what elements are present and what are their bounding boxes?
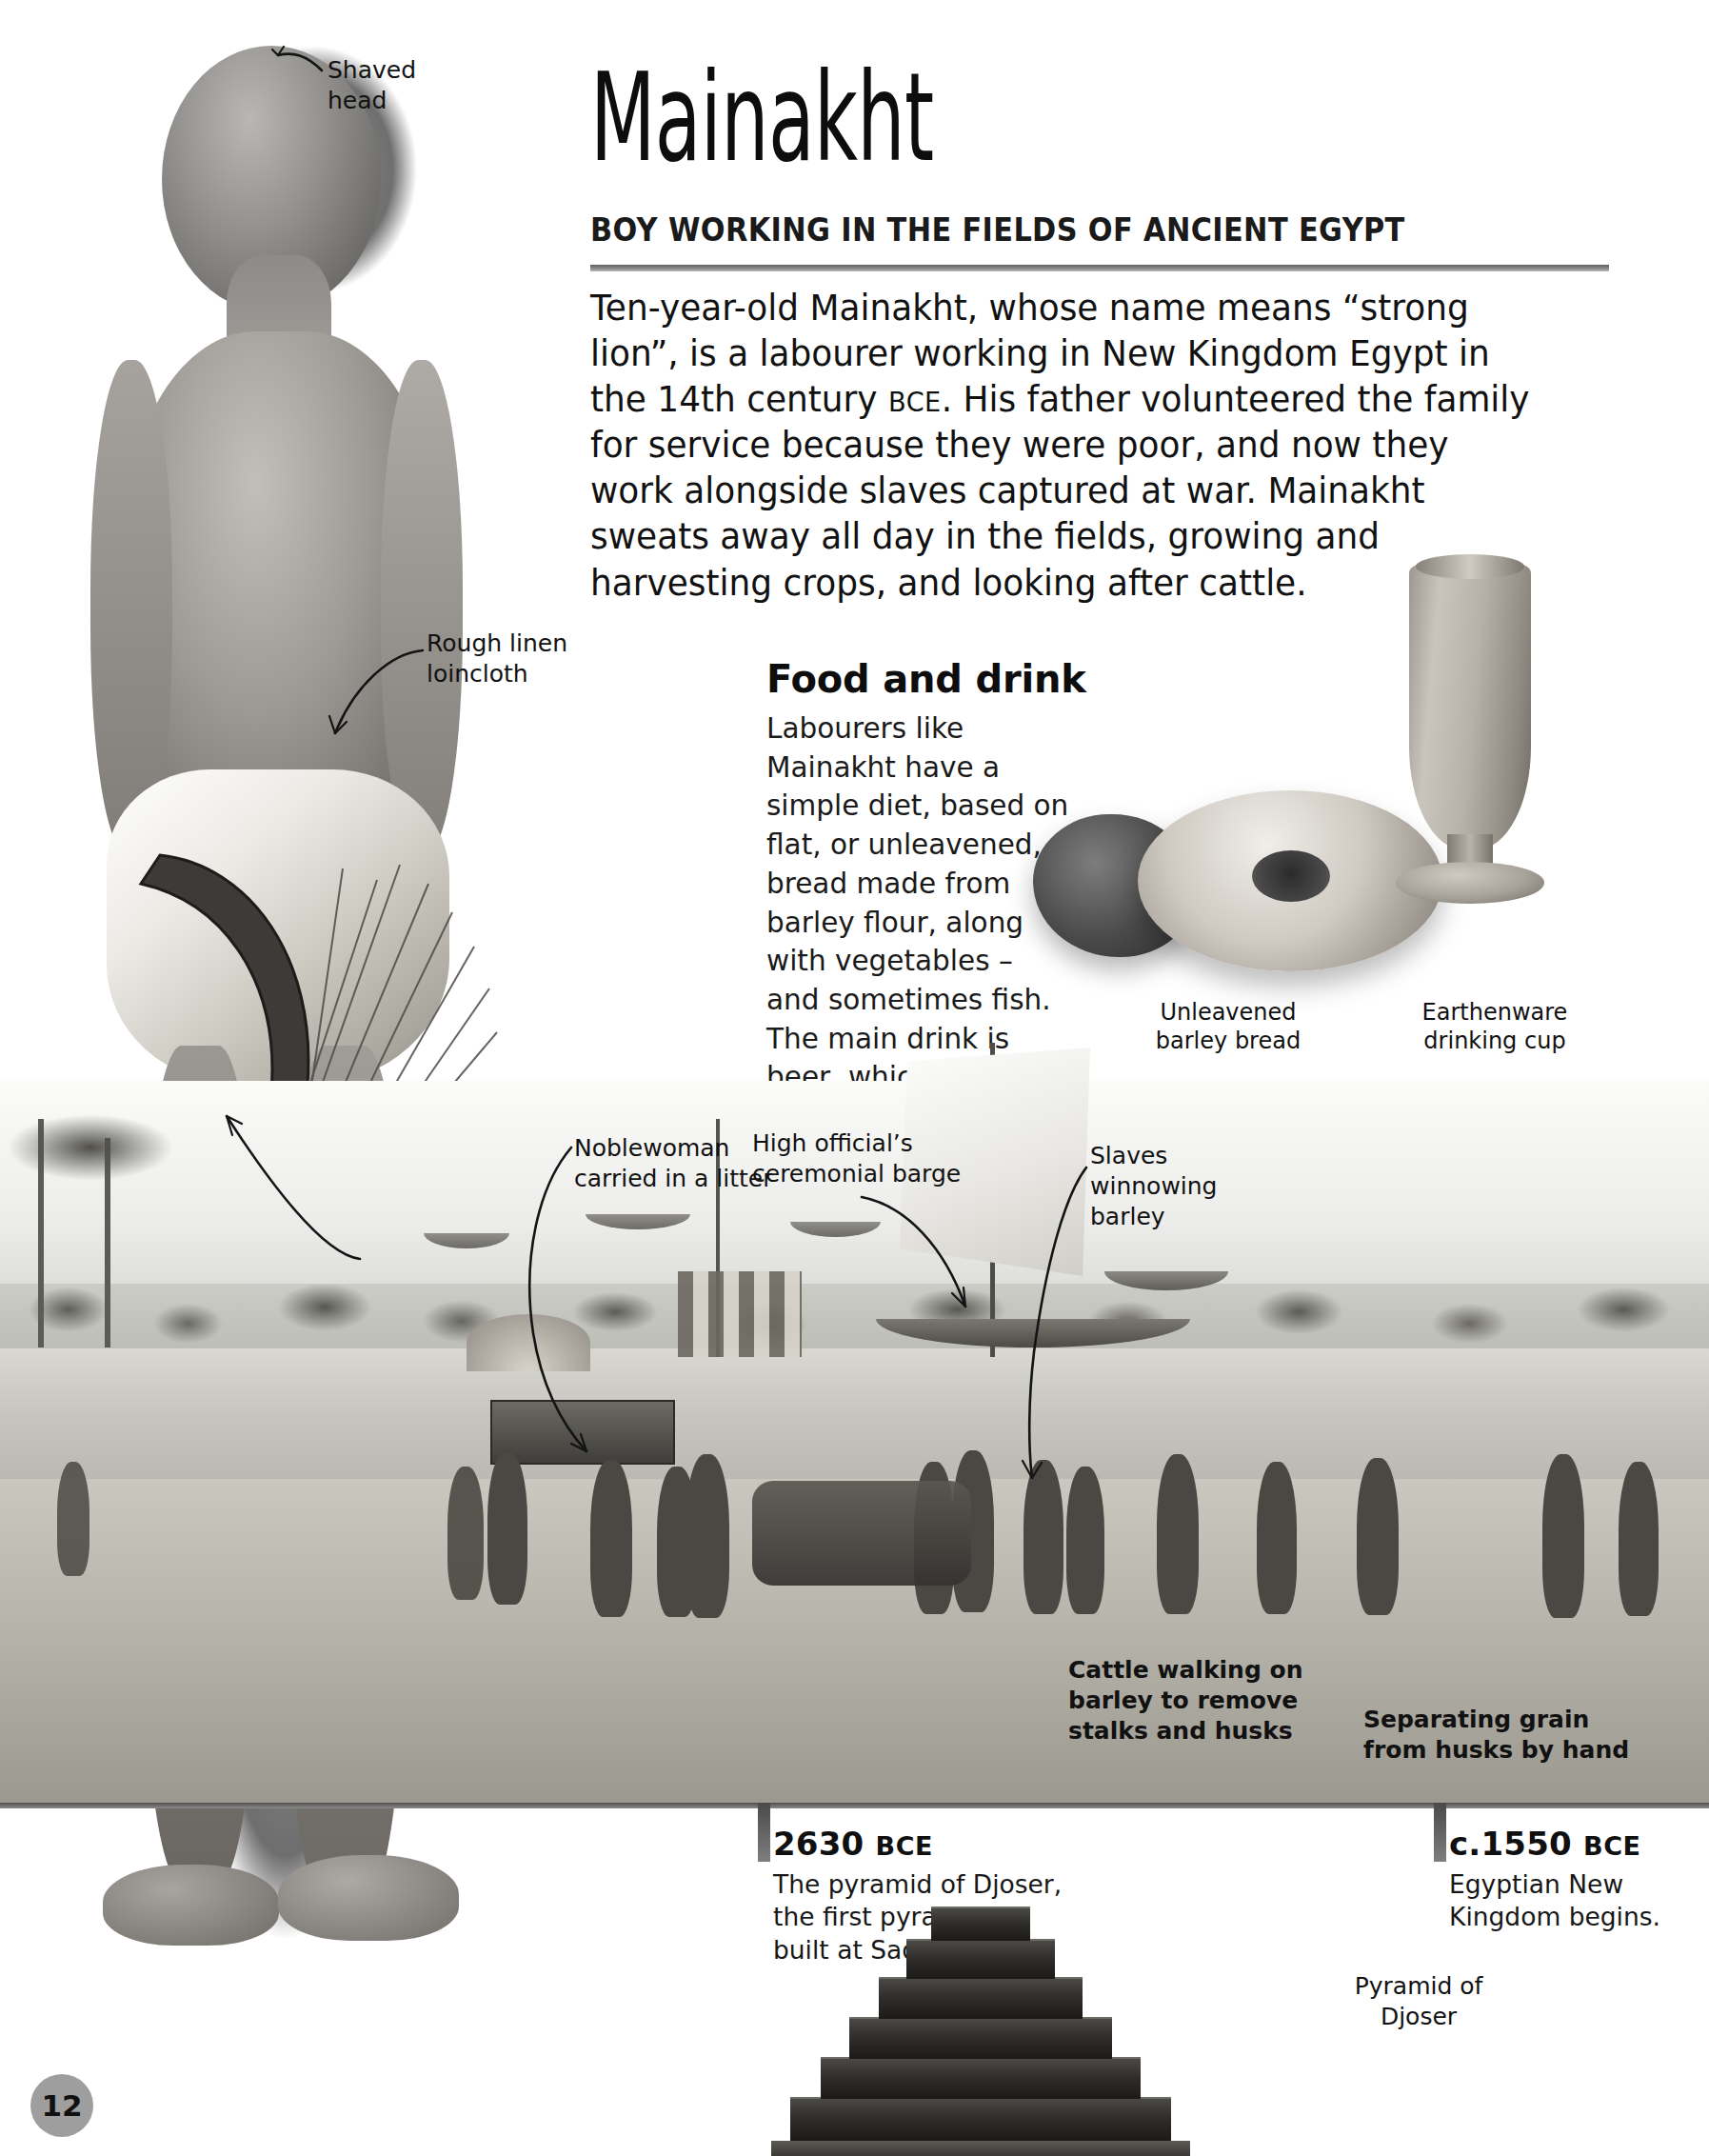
pyramid-step bbox=[879, 1977, 1083, 2019]
pyramid-step bbox=[849, 2017, 1112, 2059]
book-page: Mainakht BOY WORKING IN THE FIELDS OF AN… bbox=[0, 0, 1709, 2156]
pyramid-step bbox=[821, 2057, 1141, 2099]
page-number-badge: 12 bbox=[30, 2074, 93, 2137]
scene-figure bbox=[1157, 1454, 1199, 1614]
timeline-body-2: Egyptian New Kingdom begins. bbox=[1449, 1868, 1709, 1934]
timeline-rule bbox=[0, 1803, 1709, 1808]
intro-paragraph: Ten-year-old Mainakht, whose name means … bbox=[590, 286, 1541, 607]
header-divider bbox=[590, 265, 1609, 271]
scene-figure bbox=[57, 1462, 89, 1576]
cattle-herd bbox=[752, 1481, 971, 1586]
timeline-date-2-era: BCE bbox=[1583, 1831, 1641, 1861]
scene-figure bbox=[1357, 1458, 1399, 1615]
scene-river bbox=[0, 1348, 1709, 1493]
scene-figure bbox=[1619, 1462, 1659, 1616]
pyramid-step bbox=[931, 1906, 1030, 1941]
pyramid-ground bbox=[771, 2141, 1190, 2156]
pyramid-of-djoser-photograph bbox=[776, 1900, 1185, 2156]
timeline-tick-1 bbox=[758, 1803, 770, 1862]
timeline-tick-2 bbox=[1434, 1803, 1446, 1862]
palm-fronds bbox=[0, 1090, 200, 1205]
scene-figure bbox=[1257, 1462, 1297, 1614]
callout-shaved-head: Shaved head bbox=[328, 55, 499, 116]
caption-barley-bread: Unleavened barley bread bbox=[1100, 998, 1357, 1055]
page-title: Mainakht bbox=[590, 57, 1039, 179]
scene-figure bbox=[1066, 1467, 1104, 1614]
scene-figure bbox=[590, 1460, 632, 1617]
page-subtitle: BOY WORKING IN THE FIELDS OF ANCIENT EGY… bbox=[590, 211, 1554, 249]
food-and-drink-heading: Food and drink bbox=[766, 657, 1086, 701]
caption-pyramid-of-djoser: Pyramid of Djoser bbox=[1314, 1971, 1523, 2031]
scene-figure bbox=[447, 1467, 484, 1600]
scene-figure bbox=[1542, 1454, 1584, 1618]
earthenware-cup-body bbox=[1409, 564, 1531, 849]
callout-barge: High official’s ceremonial barge bbox=[752, 1128, 1019, 1189]
boy-right-foot bbox=[278, 1855, 459, 1941]
timeline-date-1-value: 2630 bbox=[773, 1825, 864, 1863]
boy-right-arm bbox=[381, 360, 463, 855]
noblewoman-litter bbox=[490, 1400, 675, 1465]
litter-parasol bbox=[467, 1314, 590, 1371]
barley-bread-hole bbox=[1252, 850, 1330, 902]
callout-loincloth: Rough linen loincloth bbox=[427, 629, 646, 689]
callout-cattle: Cattle walking on barley to remove stalk… bbox=[1068, 1655, 1344, 1746]
callout-separating-grain: Separating grain from husks by hand bbox=[1363, 1705, 1668, 1766]
boat-awning bbox=[678, 1271, 802, 1357]
scene-treeline bbox=[0, 1240, 1709, 1356]
earthenware-cup-foot bbox=[1396, 862, 1544, 904]
boy-left-foot bbox=[103, 1865, 279, 1946]
intro-era: BCE bbox=[888, 387, 942, 418]
timeline-date-2-value: c.1550 bbox=[1449, 1825, 1572, 1863]
earthenware-cup-rim bbox=[1416, 554, 1524, 579]
scene-figure bbox=[1023, 1460, 1063, 1614]
nile-scene-illustration bbox=[0, 1081, 1709, 1805]
scene-figure bbox=[686, 1454, 729, 1618]
pyramid-step bbox=[790, 2097, 1171, 2141]
timeline-date-1: 2630 BCE bbox=[773, 1825, 933, 1863]
caption-drinking-cup: Earthenware drinking cup bbox=[1366, 998, 1623, 1055]
timeline-date-1-era: BCE bbox=[875, 1831, 933, 1861]
pyramid-step bbox=[906, 1939, 1055, 1979]
timeline-date-2: c.1550 BCE bbox=[1449, 1825, 1641, 1863]
callout-winnowing: Slaves winnowing barley bbox=[1090, 1141, 1262, 1231]
scene-figure bbox=[487, 1452, 527, 1605]
